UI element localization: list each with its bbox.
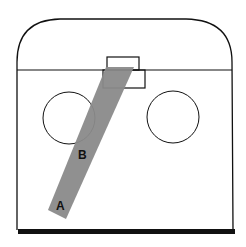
label-b: B: [78, 148, 87, 162]
bottom-boards: [18, 229, 235, 234]
rink-outline: [17, 19, 233, 230]
label-a: A: [56, 199, 65, 213]
faceoff-circle-right: [147, 91, 199, 143]
rink-diagram: B A: [0, 0, 246, 247]
